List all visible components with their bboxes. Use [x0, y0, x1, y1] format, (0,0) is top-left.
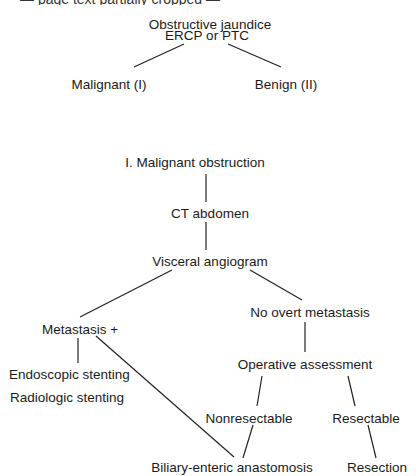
- node-malignant: Malignant (I): [71, 77, 146, 93]
- edge-resectable-resection: [368, 425, 376, 458]
- edge-operative-nonresectable: [257, 376, 262, 406]
- edge-angiogram-nometastasis: [250, 270, 302, 300]
- node-metastasis: Metastasis +: [42, 322, 118, 338]
- node-ercp-ptc: ERCP or PTC: [165, 28, 249, 44]
- node-resection: Resection: [347, 460, 407, 476]
- node-malignant-obstruction: I. Malignant obstruction: [125, 155, 265, 171]
- edge-ercp-malignant: [134, 44, 184, 67]
- edge-nonresectable-anastomosis: [243, 425, 253, 458]
- edge-operative-resectable: [348, 376, 355, 406]
- node-operative-assessment: Operative assessment: [238, 357, 372, 373]
- node-benign: Benign (II): [255, 77, 317, 93]
- edge-ercp-benign: [228, 44, 281, 67]
- node-nonresectable: Nonresectable: [205, 411, 292, 427]
- node-radiologic-stenting: Radiologic stenting: [10, 390, 124, 406]
- node-endoscopic-stenting: Endoscopic stenting: [9, 367, 130, 383]
- node-resectable: Resectable: [332, 411, 400, 427]
- node-ct-abdomen: CT abdomen: [171, 206, 249, 222]
- node-biliary-enteric-anastomosis: Biliary-enteric anastomosis: [151, 460, 312, 476]
- node-no-metastasis: No overt metastasis: [250, 305, 369, 321]
- edge-angiogram-metastasis: [80, 270, 172, 317]
- node-visceral-angiogram: Visceral angiogram: [152, 254, 267, 270]
